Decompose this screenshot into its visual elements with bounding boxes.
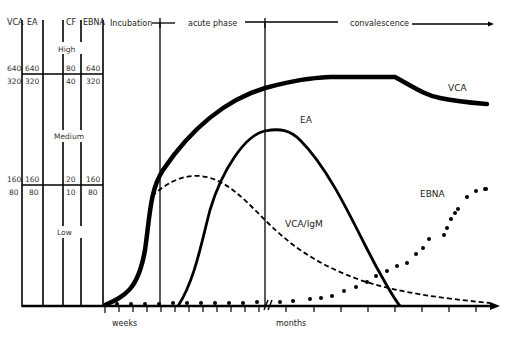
svg-text:640: 640: [7, 64, 22, 73]
svg-text:320: 320: [86, 77, 101, 86]
svg-text:80: 80: [29, 188, 39, 197]
svg-text:40: 40: [66, 77, 76, 86]
ebv-serology-chart: VCA EA CF EBNA High Medium Low 640 640 8…: [0, 0, 506, 337]
svg-text:320: 320: [7, 77, 22, 86]
x-label-months: months: [276, 319, 306, 328]
level-medium: Medium: [54, 132, 84, 141]
label-ea: EA: [300, 115, 313, 125]
col-header-ea: EA: [27, 18, 38, 27]
x-axis: [22, 300, 500, 313]
col-header-cf: CF: [66, 18, 77, 27]
label-ebna: EBNA: [420, 189, 446, 199]
series-ea: [178, 130, 400, 306]
level-low: Low: [57, 228, 72, 237]
col-header-vca: VCA: [7, 18, 24, 27]
phase-incubation: Incubation: [110, 19, 152, 28]
phase-dividers: [160, 23, 265, 306]
svg-text:640: 640: [25, 64, 40, 73]
level-high: High: [58, 45, 75, 54]
svg-text:320: 320: [25, 77, 40, 86]
svg-text:20: 20: [66, 175, 76, 184]
svg-text:640: 640: [86, 64, 101, 73]
svg-text:160: 160: [7, 175, 22, 184]
x-label-weeks: weeks: [112, 319, 137, 328]
svg-text:160: 160: [86, 175, 101, 184]
phase-acute: acute phase: [188, 19, 237, 28]
series-ebna: [115, 187, 488, 306]
label-vca-igm: VCA/IgM: [285, 219, 323, 229]
svg-text:80: 80: [9, 188, 19, 197]
svg-text:10: 10: [66, 188, 76, 197]
svg-text:80: 80: [66, 64, 76, 73]
svg-text:80: 80: [88, 188, 98, 197]
svg-text:160: 160: [25, 175, 40, 184]
phase-convalescence: convalescence: [350, 19, 409, 28]
col-header-ebna: EBNA: [83, 18, 106, 27]
label-vca: VCA: [448, 83, 467, 93]
